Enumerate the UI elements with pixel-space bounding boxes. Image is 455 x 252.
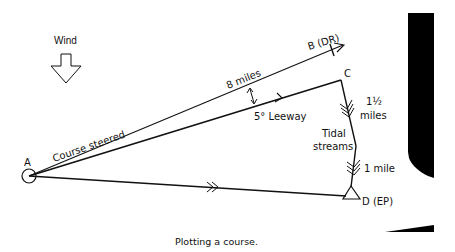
water-track-line [29,80,341,176]
tide-1-distance-line1: 1½ [366,96,382,107]
point-c-label: C [344,68,351,79]
course-plotting-diagram: Wind A B (DR) C Course steered 8 miles 5… [0,0,455,252]
page-edge-shape-top [408,13,434,178]
wind-label: Wind [54,35,77,46]
tidal-streams-label-line2: streams [313,141,353,152]
down-arrow-icon [51,54,81,83]
estimated-position-triangle [343,186,360,199]
point-a-label: A [24,157,31,168]
triple-chevron-icon [340,100,354,117]
leeway-angle-indicator [247,88,257,104]
point-b-label: B (DR) [306,32,340,52]
distance-label: 8 miles [225,67,263,91]
tide-2-distance-label: 1 mile [364,163,395,174]
point-d-label: D (EP) [362,196,393,207]
diagram-caption: Plotting a course. [175,236,258,247]
course-steered-label: Course steered [51,129,126,164]
arrowhead-b-icon [334,43,344,52]
leeway-label: 5° Leeway [254,111,307,122]
tidal-streams-label-line1: Tidal [321,128,346,139]
page-edge-shape-bottom [385,225,434,232]
ground-track-line [29,176,346,196]
tide-1-distance-line2: miles [360,110,387,121]
